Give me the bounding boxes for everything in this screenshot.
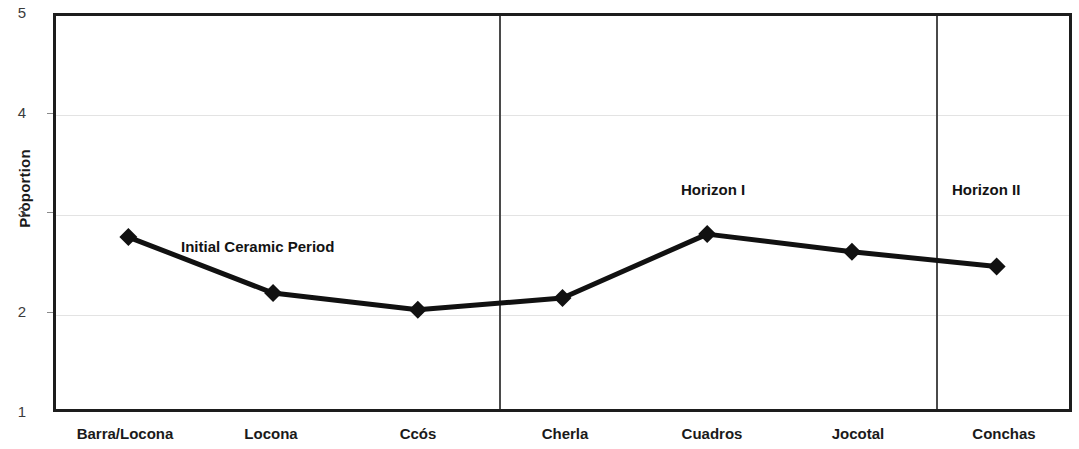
- x-tick-label-barra-locona: Barra/Locona: [77, 425, 174, 442]
- series-layer: [56, 16, 1069, 409]
- data-point-cc-s: [409, 301, 427, 319]
- data-point-locona: [264, 284, 282, 302]
- y-tick-label-5: 5: [0, 4, 26, 21]
- y-axis-title: Proportion: [16, 129, 33, 249]
- x-tick-label-cherla: Cherla: [542, 425, 589, 442]
- line-chart: Proportion 5 4 3 2 1 Initial Ceramic Per…: [0, 0, 1079, 449]
- y-tick-label-4: 4: [0, 104, 26, 121]
- x-tick-label-ccos: Ccós: [400, 425, 437, 442]
- y-tick-label-2: 2: [0, 303, 26, 320]
- annotation-initial-ceramic-period: Initial Ceramic Period: [181, 238, 334, 255]
- y-tick-label-1: 1: [0, 403, 26, 420]
- x-tick-label-locona: Locona: [244, 425, 297, 442]
- data-point-cherla: [554, 289, 572, 307]
- x-tick-label-conchas: Conchas: [972, 425, 1035, 442]
- data-point-cuadros: [698, 225, 716, 243]
- data-point-barra-locona: [119, 228, 137, 246]
- x-tick-label-cuadros: Cuadros: [682, 425, 743, 442]
- annotation-horizon-ii: Horizon II: [952, 181, 1020, 198]
- y-tick-label-3: 3: [0, 203, 26, 220]
- x-tick-label-jocotal: Jocotal: [832, 425, 885, 442]
- plot-area: Initial Ceramic Period Horizon I Horizon…: [53, 13, 1072, 412]
- data-point-conchas: [988, 258, 1006, 276]
- data-point-jocotal: [843, 243, 861, 261]
- annotation-horizon-i: Horizon I: [681, 181, 745, 198]
